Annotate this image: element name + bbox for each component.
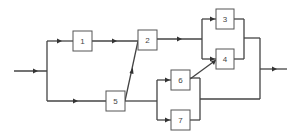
arrow-icon xyxy=(165,78,170,83)
block-label: 1 xyxy=(80,37,85,46)
block-label: 2 xyxy=(145,36,150,45)
block-1: 1 xyxy=(73,31,92,51)
arrow-icon xyxy=(57,39,62,44)
block-label: 6 xyxy=(178,76,183,85)
arrow-icon xyxy=(73,99,78,104)
block-5: 5 xyxy=(106,91,125,111)
arrow-icon xyxy=(33,69,38,74)
arrow-icon xyxy=(177,37,182,42)
block-label: 7 xyxy=(178,116,183,125)
arrow-icon xyxy=(165,118,170,123)
line-6-to-4 xyxy=(190,60,216,79)
block-7: 7 xyxy=(171,110,190,130)
block-label: 4 xyxy=(223,55,228,64)
block-label: 5 xyxy=(113,97,118,106)
block-6: 6 xyxy=(171,70,190,90)
block-4: 4 xyxy=(216,49,234,69)
arrow-icon xyxy=(112,39,117,44)
block-label: 3 xyxy=(223,15,228,24)
arrow-icon xyxy=(210,17,215,22)
block-2: 2 xyxy=(138,30,157,50)
block-3: 3 xyxy=(216,9,234,29)
reliability-block-diagram: 1 2 3 4 5 6 7 xyxy=(0,0,302,139)
arrow-icon xyxy=(272,67,277,72)
